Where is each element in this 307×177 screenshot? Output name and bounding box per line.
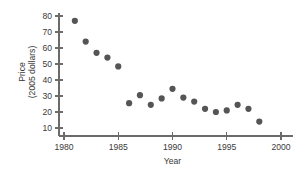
data-point: 1995: 21 [224,107,230,113]
data-point: 1993: 22 [202,106,208,112]
data-point: 1988: 24.5 [148,102,154,108]
y-tick-label: 70 [42,27,52,37]
data-point: 1994: 20 [213,109,219,115]
y-tick-label: 10 [42,123,52,133]
y-tick-label: 30 [42,91,52,101]
data-point: 1996: 24.5 [235,102,241,108]
data-point: 1992: 26.5 [191,99,197,105]
y-tick-label: 40 [42,75,52,85]
x-tick-label: 1980 [54,142,73,152]
y-axis: 1020304050607080 [42,11,63,136]
data-point: 1983: 57 [93,50,99,56]
data-point: 1987: 30.5 [137,92,143,98]
y-axis-title-line1: Price [17,62,27,82]
x-tick-label: 1995 [217,142,236,152]
data-point: 1982: 64 [83,39,89,45]
x-tick-label: 1985 [109,142,128,152]
data-point: 1989: 28.5 [159,95,165,101]
data-point: 1990: 34.5 [169,86,175,92]
y-tick-label: 80 [42,11,52,21]
data-point: 1981: 77 [72,18,78,24]
data-point: 1991: 29 [180,95,186,101]
y-tick-label: 20 [42,107,52,117]
data-point: 1998: 14 [256,119,262,125]
x-axis: 19801985199019952000 [54,132,293,152]
data-point: 1997: 22 [245,106,251,112]
chart-canvas: 1020304050607080 19801985199019952000 19… [0,0,307,177]
x-tick-label: 1990 [163,142,182,152]
y-tick-label: 50 [42,59,52,69]
scatter-chart-figure: 1020304050607080 19801985199019952000 19… [0,0,307,177]
data-point: 1984: 54 [104,55,110,61]
y-tick-label: 60 [42,43,52,53]
data-point: 1985: 48.5 [115,63,121,69]
data-points-layer: 1981: 771982: 641983: 571984: 541985: 48… [72,18,263,125]
y-axis-title-line2: (2005 dollars) [27,46,37,99]
x-tick-label: 2000 [271,142,290,152]
data-point: 1986: 25.5 [126,100,132,106]
x-axis-title: Year [164,156,182,166]
